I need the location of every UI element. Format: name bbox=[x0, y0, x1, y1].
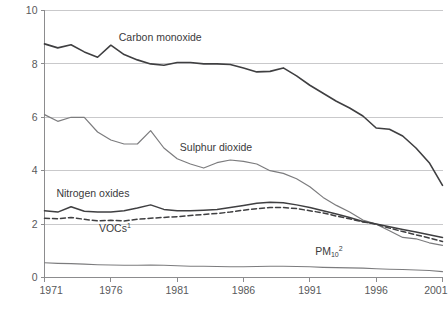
y-tick-label: 0 bbox=[32, 271, 38, 283]
series-line-pm10 bbox=[45, 263, 443, 272]
y-tick-label: 6 bbox=[32, 111, 38, 123]
series-lines bbox=[45, 44, 443, 272]
series-label-carbon-monoxide: Carbon monoxide bbox=[119, 31, 202, 43]
line-chart: 0246810 1971197619811986199119962001 Car… bbox=[0, 0, 448, 310]
y-tick-label: 2 bbox=[32, 218, 38, 230]
x-tick-label: 2001 bbox=[424, 284, 448, 296]
x-tick-label: 1981 bbox=[165, 284, 189, 296]
series-label-pm10: PM102 bbox=[315, 245, 343, 259]
x-tick-label: 1986 bbox=[232, 284, 256, 296]
y-tick-label: 10 bbox=[26, 4, 38, 16]
x-tick-label: 1976 bbox=[99, 284, 123, 296]
y-tick-labels: 0246810 bbox=[26, 4, 45, 283]
chart-container: 0246810 1971197619811986199119962001 Car… bbox=[0, 0, 448, 310]
series-label-nitrogen-oxides: Nitrogen oxides bbox=[56, 187, 129, 199]
y-tick-label: 8 bbox=[32, 58, 38, 70]
x-tick-label: 1991 bbox=[298, 284, 322, 296]
series-line-carbon-monoxide bbox=[45, 44, 443, 186]
x-tick-labels: 1971197619811986199119962001 bbox=[40, 278, 448, 296]
y-tick-label: 4 bbox=[32, 164, 38, 176]
series-label-sulphur-dioxide: Sulphur dioxide bbox=[180, 141, 253, 153]
x-tick-label: 1996 bbox=[364, 284, 388, 296]
series-label-vocs: VOCs1 bbox=[99, 222, 131, 234]
x-tick-label: 1971 bbox=[40, 284, 64, 296]
